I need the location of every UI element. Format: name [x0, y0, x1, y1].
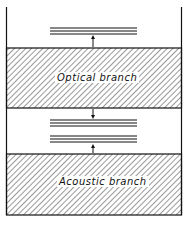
levels-gap-upper	[50, 120, 137, 126]
arrow-up-icon	[91, 35, 95, 47]
levels-above-optical	[50, 28, 137, 34]
levels-gap-lower	[50, 136, 137, 142]
acoustic-branch-label: Acoustic branch	[57, 176, 149, 187]
arrow-down-icon	[91, 109, 95, 119]
optical-branch-label: Optical branch	[55, 72, 139, 83]
diagram-canvas	[0, 0, 189, 225]
arrow-up-icon	[91, 144, 95, 153]
